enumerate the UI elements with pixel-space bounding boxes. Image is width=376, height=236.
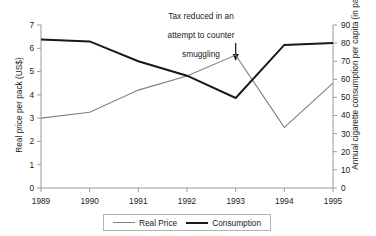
right-axis-ticks	[333, 25, 337, 188]
legend-item-real-price: Real Price	[113, 218, 177, 228]
legend-label: Real Price	[139, 218, 177, 228]
left-tick-label: 4	[18, 90, 34, 100]
left-tick-label: 0	[18, 183, 34, 193]
series-line-consumption	[41, 40, 333, 98]
x-tick-label: 1993	[216, 196, 256, 206]
right-tick-label: 80	[341, 38, 357, 48]
x-tick-label: 1991	[118, 196, 158, 206]
right-tick-label: 10	[341, 165, 357, 175]
left-tick-label: 6	[18, 43, 34, 53]
right-tick-label: 40	[341, 110, 357, 120]
x-tick-label: 1994	[264, 196, 304, 206]
right-tick-label: 20	[341, 147, 357, 157]
left-tick-label: 1	[18, 160, 34, 170]
right-tick-label: 90	[341, 20, 357, 30]
left-tick-label: 5	[18, 66, 34, 76]
left-axis-ticks	[37, 25, 41, 188]
legend-item-consumption: Consumption	[186, 218, 261, 228]
left-tick-label: 3	[18, 113, 34, 123]
x-tick-label: 1989	[21, 196, 61, 206]
x-tick-label: 1995	[313, 196, 353, 206]
legend-label: Consumption	[212, 218, 261, 228]
x-axis-ticks	[41, 188, 333, 192]
legend-swatch-icon	[113, 222, 135, 223]
line-chart: Tax reduced in an attempt to counter smu…	[0, 0, 376, 236]
x-tick-label: 1990	[70, 196, 110, 206]
left-tick-label: 2	[18, 136, 34, 146]
left-tick-label: 7	[18, 20, 34, 30]
right-tick-label: 50	[341, 92, 357, 102]
x-tick-label: 1992	[167, 196, 207, 206]
right-tick-label: 60	[341, 74, 357, 84]
series-line-real-price	[41, 55, 333, 127]
legend-swatch-icon	[186, 222, 208, 224]
right-tick-label: 0	[341, 183, 357, 193]
chart-legend: Real Price Consumption	[103, 214, 271, 231]
right-tick-label: 30	[341, 129, 357, 139]
right-tick-label: 70	[341, 56, 357, 66]
